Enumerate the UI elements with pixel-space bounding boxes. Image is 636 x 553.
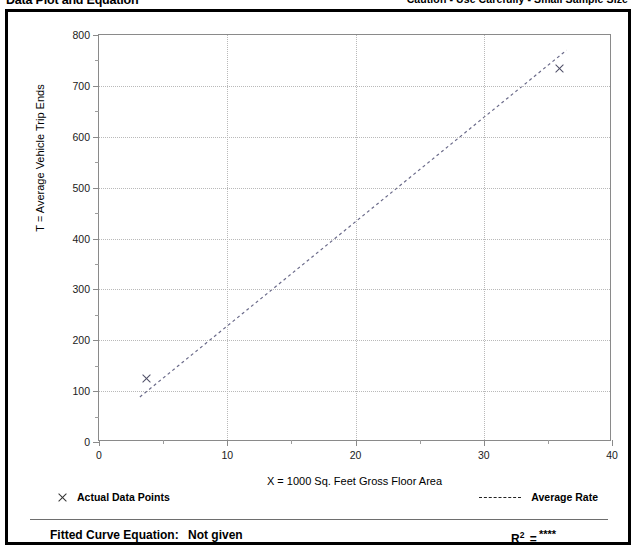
x-axis-tick-label: 0 [96,449,102,461]
x-axis-tick-label: 40 [606,449,618,461]
x-axis-minor-tick [548,440,549,444]
y-axis-minor-tick [95,264,99,265]
r-squared-label: R [511,532,520,546]
equation-row: Fitted Curve Equation: Not given R2 =***… [8,528,628,550]
gridline-horizontal [99,137,610,138]
x-axis-title: X = 1000 Sq. Feet Gross Floor Area [98,475,611,487]
x-axis-minor-tick [291,440,292,444]
gridline-horizontal [99,239,610,240]
plot-inner [99,35,610,440]
y-axis-tick-label: 100 [72,385,90,397]
plot-area: 0100200300400500600700800010203040 [98,34,611,441]
fitted-curve-equation-label: Fitted Curve Equation: [50,528,179,542]
gridline-vertical [356,35,357,440]
y-axis-tick-label: 800 [72,29,90,41]
chart-frame: T = Average Vehicle Trip Ends 0100200300… [5,9,631,545]
y-axis-tick-label: 600 [72,131,90,143]
dashed-line-icon [479,497,521,498]
data-point-marker [554,63,565,74]
y-axis-tick-label: 500 [72,182,90,194]
average-rate-trendline [99,35,610,440]
page-header: Data Plot and Equation Caution - Use Car… [0,0,636,9]
x-axis-tick [227,440,228,446]
y-axis-tick-label: 400 [72,233,90,245]
gridline-horizontal [99,391,610,392]
y-axis-tick [93,188,99,189]
y-axis-minor-tick [95,315,99,316]
y-axis-title: T = Average Vehicle Trip Ends [34,38,46,278]
y-axis-minor-tick [95,213,99,214]
fitted-curve-equation-value: Not given [188,528,243,542]
legend-actual-data-points: Actual Data Points [56,491,170,503]
data-point-marker [141,373,152,384]
page-title: Data Plot and Equation [6,0,138,7]
y-axis-minor-tick [95,417,99,418]
y-axis-minor-tick [95,162,99,163]
legend-label-actual-data-points: Actual Data Points [77,491,170,503]
caution-note: Caution - Use Carefully - Small Sample S… [407,0,628,5]
x-axis-minor-tick [163,440,164,444]
x-axis-tick [484,440,485,446]
gridline-horizontal [99,188,610,189]
legend-label-average-rate: Average Rate [531,491,598,503]
y-axis-tick-label: 300 [72,283,90,295]
x-axis-minor-tick [420,440,421,444]
gridline-horizontal [99,289,610,290]
x-axis-tick-label: 10 [221,449,233,461]
x-axis-tick-label: 30 [478,449,490,461]
data-plot-page: Data Plot and Equation Caution - Use Car… [0,0,636,553]
y-axis-tick [93,239,99,240]
y-axis-minor-tick [95,366,99,367]
y-axis-tick [93,340,99,341]
gridline-vertical [484,35,485,440]
x-axis-tick [99,440,100,446]
y-axis-tick [93,289,99,290]
x-axis-tick-label: 20 [350,449,362,461]
fitted-curve-equation: Fitted Curve Equation: Not given [50,528,243,542]
gridline-horizontal [99,86,610,87]
y-axis-minor-tick [95,111,99,112]
y-axis-tick-label: 0 [84,436,90,448]
y-axis-tick-label: 200 [72,334,90,346]
footer-divider [30,519,608,520]
y-axis-tick [93,35,99,36]
legend-row: Actual Data Points Average Rate [8,491,628,511]
gridline-vertical [227,35,228,440]
r-squared-equals: = [530,532,537,546]
x-axis-tick [612,440,613,446]
gridline-horizontal [99,340,610,341]
r-squared-stars: **** [539,528,556,540]
x-marker-icon [56,492,67,503]
y-axis-tick [93,86,99,87]
y-axis-tick-label: 700 [72,80,90,92]
legend-average-rate: Average Rate [479,491,598,503]
y-axis-tick [93,137,99,138]
r-squared-exponent: 2 [520,530,525,540]
y-axis-minor-tick [95,60,99,61]
y-axis-tick [93,391,99,392]
r-squared-value: R2 =**** [511,528,556,546]
plot-wrapper: T = Average Vehicle Trip Ends 0100200300… [8,12,628,542]
x-axis-tick [356,440,357,446]
